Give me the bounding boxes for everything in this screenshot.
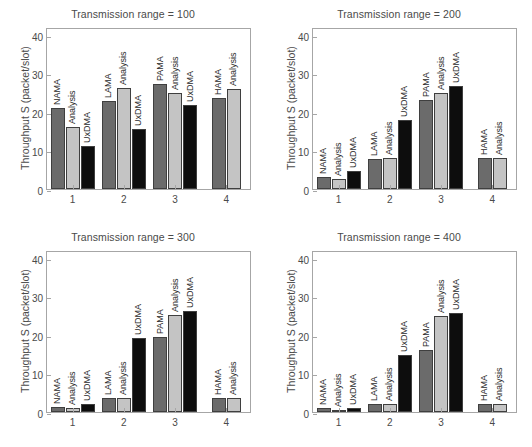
x-tick-mark (492, 408, 493, 412)
bar-label: Analysis (494, 367, 504, 401)
y-tick-label: 40 (32, 31, 43, 42)
bar-label: HAMA (479, 129, 489, 155)
bar-group: HAMAAnalysis (47, 252, 252, 412)
y-tick-label: 10 (32, 147, 43, 158)
x-tick-label: 2 (121, 194, 127, 205)
subplot-1: Transmission range = 100Throughput S (pa… (0, 0, 266, 223)
bar (212, 398, 226, 412)
subplot-title: Transmission range = 200 (266, 8, 532, 20)
y-tick-label: 10 (32, 370, 43, 381)
y-tick-label: 30 (298, 70, 309, 81)
figure-canvas: Transmission range = 100Throughput S (pa… (0, 0, 532, 447)
subplot-4: Transmission range = 400Throughput S (pa… (266, 223, 532, 446)
bar-group: HAMAAnalysis (313, 252, 518, 412)
x-tick-label: 4 (224, 417, 230, 428)
y-tick-label: 0 (303, 186, 309, 197)
y-axis-label-wrap: Throughput S (packet/slot) (272, 251, 286, 411)
y-tick-mark (47, 414, 51, 415)
x-tick-mark (492, 185, 493, 189)
y-tick-label: 20 (32, 108, 43, 119)
subplot-title: Transmission range = 300 (0, 231, 266, 243)
y-axis-label-wrap: Throughput S (packet/slot) (6, 28, 20, 188)
plot-area: 010203040NAMAAnalysisUxDMA1LAMAAnalysisU… (312, 251, 517, 413)
y-axis-label-wrap: Throughput S (packet/slot) (6, 251, 20, 411)
x-tick-label: 1 (70, 417, 76, 428)
bar-label: HAMA (213, 369, 223, 395)
bar (227, 398, 241, 412)
y-tick-label: 20 (32, 331, 43, 342)
plot-area: 010203040NAMAAnalysisUxDMA1LAMAAnalysisU… (46, 251, 251, 413)
bar-group: HAMAAnalysis (47, 29, 252, 189)
y-axis-label-wrap: Throughput S (packet/slot) (272, 28, 286, 188)
bar (212, 98, 226, 189)
y-tick-mark (313, 414, 317, 415)
x-tick-label: 4 (224, 194, 230, 205)
x-tick-label: 4 (490, 194, 496, 205)
y-tick-label: 10 (298, 147, 309, 158)
bar (493, 404, 507, 412)
bar (227, 89, 241, 189)
subplot-2: Transmission range = 200Throughput S (pa… (266, 0, 532, 223)
plot-area: 010203040NAMAAnalysisUxDMA1LAMAAnalysisU… (46, 28, 251, 190)
y-tick-mark (313, 191, 317, 192)
y-tick-label: 20 (298, 331, 309, 342)
y-tick-label: 0 (303, 409, 309, 420)
bar (493, 158, 507, 189)
plot-area: 010203040NAMAAnalysisUxDMA1LAMAAnalysisU… (312, 28, 517, 190)
x-tick-label: 2 (387, 417, 393, 428)
bar-group: HAMAAnalysis (313, 29, 518, 189)
x-tick-mark (226, 408, 227, 412)
x-tick-label: 3 (172, 194, 178, 205)
y-tick-mark (47, 191, 51, 192)
y-tick-label: 20 (298, 108, 309, 119)
y-tick-label: 30 (298, 293, 309, 304)
bar (478, 158, 492, 189)
y-tick-label: 40 (298, 254, 309, 265)
y-tick-label: 40 (32, 254, 43, 265)
y-tick-label: 0 (37, 409, 43, 420)
x-tick-label: 4 (490, 417, 496, 428)
bar-label: HAMA (213, 69, 223, 95)
x-tick-label: 3 (172, 417, 178, 428)
y-axis-label: Throughput S (packet/slot) (285, 256, 297, 406)
bar (478, 404, 492, 412)
y-tick-label: 30 (32, 70, 43, 81)
x-tick-label: 1 (70, 194, 76, 205)
y-axis-label: Throughput S (packet/slot) (285, 33, 297, 183)
bar-label: Analysis (494, 122, 504, 156)
y-tick-label: 10 (298, 370, 309, 381)
x-tick-mark (226, 185, 227, 189)
subplot-title: Transmission range = 400 (266, 231, 532, 243)
bar-label: HAMA (479, 375, 489, 401)
y-axis-label: Throughput S (packet/slot) (19, 33, 31, 183)
y-tick-label: 40 (298, 31, 309, 42)
x-tick-label: 1 (336, 417, 342, 428)
subplot-3: Transmission range = 300Throughput S (pa… (0, 223, 266, 446)
x-tick-label: 2 (387, 194, 393, 205)
y-axis-label: Throughput S (packet/slot) (19, 256, 31, 406)
x-tick-label: 2 (121, 417, 127, 428)
x-tick-label: 3 (438, 194, 444, 205)
y-tick-label: 0 (37, 186, 43, 197)
y-tick-label: 30 (32, 293, 43, 304)
x-tick-label: 1 (336, 194, 342, 205)
bar-label: Analysis (228, 53, 238, 87)
x-tick-label: 3 (438, 417, 444, 428)
subplot-title: Transmission range = 100 (0, 8, 266, 20)
bar-label: Analysis (228, 362, 238, 396)
